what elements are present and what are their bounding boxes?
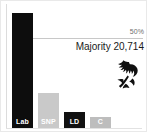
majority-threshold-line [30,38,143,39]
labour-rose-logo [112,60,142,90]
majority-threshold-percent-label: 50% [130,27,144,36]
x-axis-baseline [6,128,142,129]
bar-label-snp: SNP [38,118,59,126]
election-result-bar-chart: 50% Majority 20,714 Lab SNP LD [0,0,148,133]
y-axis-line [6,4,7,128]
bar-ld[interactable]: LD [64,112,85,128]
bar-label-ld: LD [64,118,85,126]
bar-label-c: C [90,118,111,126]
bar-label-lab: Lab [12,118,33,126]
bar-c[interactable]: C [90,117,111,128]
bar-lab[interactable]: Lab [12,13,33,128]
bar-snp[interactable]: SNP [38,93,59,128]
majority-value-label: Majority 20,714 [76,41,144,53]
